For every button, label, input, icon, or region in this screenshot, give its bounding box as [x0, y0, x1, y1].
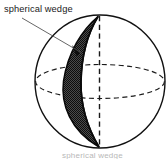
figure-caption: spherical wedge [62, 151, 123, 159]
spherical-wedge-figure: spherical wedge spherical wedge [0, 0, 168, 159]
spherical-wedge-label: spherical wedge [4, 4, 73, 14]
diagram-canvas: spherical wedge spherical wedge [0, 0, 168, 159]
